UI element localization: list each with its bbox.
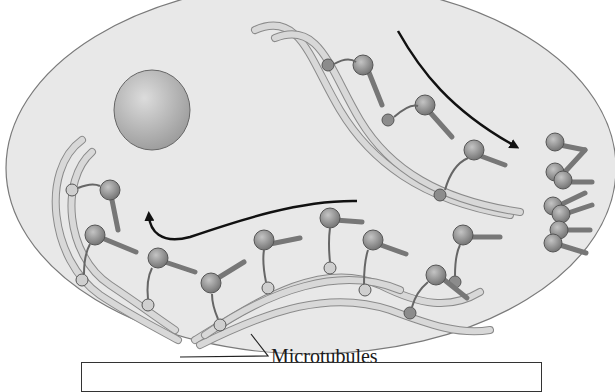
vesicle [114,70,190,150]
answer-box [81,362,542,392]
